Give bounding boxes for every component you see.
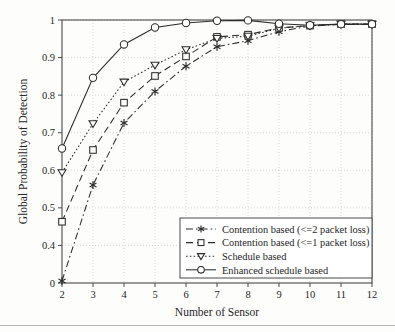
x-tick-label: 4 (121, 289, 127, 300)
y-tick-label: 1 (50, 15, 55, 26)
x-tick-label: 8 (245, 289, 250, 300)
x-tick-label: 9 (276, 289, 281, 300)
legend-label: Contention based (<=1 packet loss) (222, 237, 369, 249)
marker-square (90, 147, 97, 154)
x-tick-label: 2 (59, 289, 64, 300)
y-tick-label: 0.8 (42, 90, 55, 101)
figure-container: 2345678910111200.40.50.60.70.80.91Number… (0, 0, 395, 332)
page-edge-rule (0, 325, 395, 326)
y-tick-label: 0 (50, 278, 55, 289)
marker-circle (275, 20, 282, 27)
marker-square (152, 73, 159, 80)
x-tick-label: 10 (305, 289, 316, 300)
x-tick-label: 6 (183, 289, 188, 300)
x-tick-label: 7 (214, 289, 219, 300)
marker-triangle-down (120, 79, 128, 86)
marker-circle (120, 41, 127, 48)
marker-triangle-down (58, 170, 66, 177)
marker-circle (89, 74, 96, 81)
y-tick-label: 0.7 (42, 127, 55, 138)
marker-triangle-down (182, 47, 190, 54)
marker-circle (337, 20, 344, 27)
legend-label: Schedule based (222, 251, 287, 262)
y-tick-label: 0.9 (42, 52, 55, 63)
marker-circle (58, 145, 65, 152)
marker-square (59, 218, 66, 225)
x-tick-label: 5 (152, 289, 157, 300)
marker-circle (306, 22, 313, 29)
x-axis-label: Number of Sensor (175, 306, 259, 318)
y-tick-label: 0.4 (42, 240, 56, 251)
marker-triangle-down (89, 121, 97, 128)
x-tick-label: 3 (90, 289, 95, 300)
marker-circle (368, 20, 375, 27)
marker-circle (213, 17, 220, 24)
marker-circle (182, 19, 189, 26)
x-tick-label: 12 (367, 289, 378, 300)
line-chart: 2345678910111200.40.50.60.70.80.91Number… (0, 0, 395, 332)
legend[interactable]: Contention based (<=2 packet loss)Conten… (180, 218, 372, 278)
marker-square (121, 99, 128, 106)
marker-circle (244, 17, 251, 24)
marker-square (198, 240, 204, 246)
x-tick-label: 11 (336, 289, 346, 300)
marker-triangle-down (151, 62, 159, 69)
marker-circle (198, 266, 205, 273)
y-axis-label: Global Probability of Detection (17, 79, 30, 225)
y-tick-label: 0.6 (42, 165, 55, 176)
legend-label: Enhanced schedule based (222, 265, 329, 276)
legend-label: Contention based (<=2 packet loss) (222, 224, 369, 236)
y-tick-label: 0.5 (42, 202, 55, 213)
marker-circle (151, 24, 158, 31)
